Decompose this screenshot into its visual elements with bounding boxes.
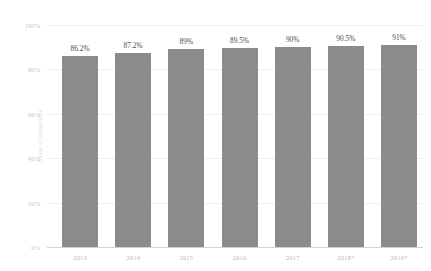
bar-value-label: 90.5% (328, 34, 364, 43)
bar[interactable] (328, 46, 364, 247)
x-axis-tick-label: 2015 (159, 254, 213, 261)
x-axis-tick-label: 2014 (106, 254, 160, 261)
plot-area: 0%20%40%60%80%100% 86.2%201387.2%201489%… (47, 25, 423, 247)
bar-slot: 89.5%2016 (222, 25, 258, 247)
bar[interactable] (275, 47, 311, 247)
bar[interactable] (222, 48, 258, 247)
bar-value-label: 86.2% (62, 44, 98, 53)
y-axis-tick-label: 80% (28, 66, 40, 73)
y-axis-tick-label: 40% (28, 155, 40, 162)
bar-value-label: 87.2% (115, 41, 151, 50)
y-axis-tick-label: 0% (31, 244, 40, 251)
x-axis-tick-label: 2017 (266, 254, 320, 261)
x-axis-tick-label: 2016 (213, 254, 267, 261)
bar[interactable] (115, 53, 151, 247)
bar-chart: Share of companies 0%20%40%60%80%100% 86… (0, 0, 431, 271)
bar-value-label: 89.5% (222, 36, 258, 45)
bar-value-label: 89% (168, 37, 204, 46)
bar[interactable] (381, 45, 417, 247)
y-axis-tick-label: 100% (25, 22, 40, 29)
bar[interactable] (62, 56, 98, 247)
bar-slot: 86.2%2013 (62, 25, 98, 247)
bar-value-label: 91% (381, 33, 417, 42)
bar-slot: 87.2%2014 (115, 25, 151, 247)
bar-slot: 90.5%2018* (328, 25, 364, 247)
bar-slot: 90%2017 (275, 25, 311, 247)
bar-slot: 91%2019* (381, 25, 417, 247)
gridline (47, 247, 423, 248)
x-axis-tick-label: 2013 (53, 254, 107, 261)
y-axis-tick-label: 20% (28, 199, 40, 206)
bar-slot: 89%2015 (168, 25, 204, 247)
x-axis-tick-label: 2018* (319, 254, 373, 261)
bar-value-label: 90% (275, 35, 311, 44)
bar[interactable] (168, 49, 204, 247)
y-axis-tick-label: 60% (28, 110, 40, 117)
x-axis-tick-label: 2019* (372, 254, 426, 261)
